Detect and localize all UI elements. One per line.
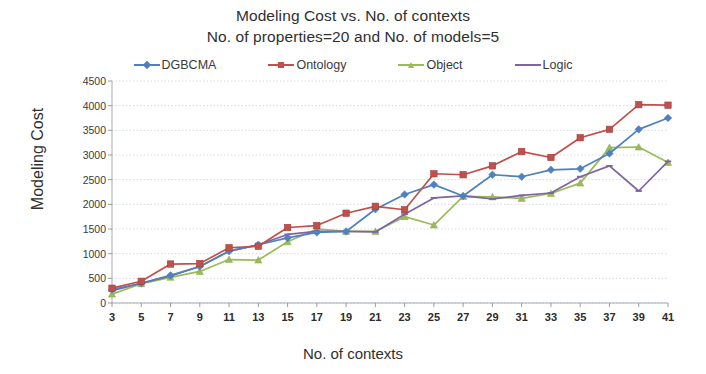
- data-point-marker: [372, 203, 378, 209]
- data-point-marker: [401, 207, 407, 213]
- data-point-marker: [284, 224, 290, 230]
- data-point-marker: [138, 278, 144, 284]
- data-point-marker: [226, 245, 232, 251]
- data-point-marker: [518, 195, 524, 197]
- data-point-marker: [197, 260, 203, 266]
- data-point-marker: [518, 148, 524, 154]
- data-point-marker: [636, 101, 642, 107]
- series-line: [112, 147, 668, 294]
- data-point-marker: [489, 198, 495, 200]
- data-point-marker: [636, 190, 642, 192]
- data-point-marker: [460, 172, 466, 178]
- data-point-marker: [431, 171, 437, 177]
- data-point-marker: [401, 213, 407, 215]
- data-point-marker: [548, 192, 554, 194]
- chart-container: Modeling Cost vs. No. of contexts No. of…: [0, 0, 706, 374]
- data-point-marker: [547, 166, 555, 174]
- plot-area: [0, 0, 706, 374]
- data-point-marker: [401, 191, 409, 199]
- data-point-marker: [606, 126, 612, 132]
- data-point-marker: [255, 243, 261, 249]
- data-point-marker: [430, 181, 438, 189]
- series-dgbcma: [108, 114, 672, 293]
- data-point-marker: [314, 222, 320, 228]
- data-point-marker: [109, 285, 115, 291]
- data-point-marker: [576, 165, 584, 173]
- data-point-marker: [489, 163, 495, 169]
- series-ontology: [109, 101, 671, 291]
- series-line: [112, 161, 668, 290]
- data-point-marker: [343, 210, 349, 216]
- data-point-marker: [577, 135, 583, 141]
- series-line: [112, 105, 668, 289]
- data-point-marker: [664, 114, 672, 122]
- data-point-marker: [577, 176, 583, 178]
- series-object: [108, 144, 671, 298]
- data-point-marker: [167, 261, 173, 267]
- data-point-marker: [431, 197, 437, 199]
- data-point-marker: [606, 165, 612, 167]
- data-point-marker: [372, 231, 378, 233]
- data-point-marker: [665, 102, 671, 108]
- data-point-marker: [548, 154, 554, 160]
- data-point-marker: [665, 161, 671, 163]
